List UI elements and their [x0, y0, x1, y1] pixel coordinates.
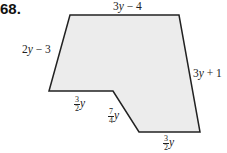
label-right-side: 3y + 1: [193, 67, 222, 79]
rest: + 1: [204, 67, 222, 79]
label-left-side: 2y − 3: [22, 43, 51, 55]
label-bottom-side: 32y: [163, 135, 174, 152]
denominator: 2: [164, 144, 168, 152]
denominator: 4: [109, 117, 113, 125]
rest: − 4: [124, 0, 142, 12]
label-step-diagonal: 74y: [108, 108, 119, 125]
label-step-horizontal: 32y: [74, 96, 85, 113]
var: y: [80, 97, 85, 109]
polygon-shape: [49, 15, 200, 132]
denominator: 2: [75, 105, 79, 113]
var: y: [114, 109, 119, 121]
var: y: [169, 136, 174, 148]
label-top-side: 3y − 4: [113, 0, 142, 12]
rest: − 3: [33, 43, 51, 55]
